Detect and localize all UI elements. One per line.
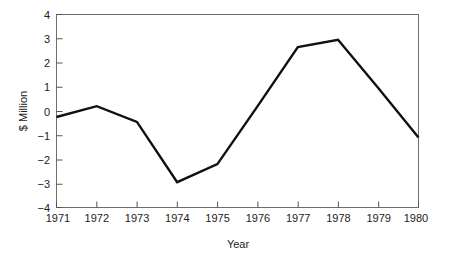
y-tick-label: −3: [37, 178, 50, 190]
x-tick-label: 1977: [286, 212, 310, 224]
x-axis-title: Year: [227, 238, 250, 250]
chart-figure: 4 3 2 1 0 −1 −2 −3 −4 1971 1972 1973 197…: [0, 0, 450, 257]
y-axis-title: $ Million: [17, 91, 29, 131]
y-tick-label: −1: [37, 130, 50, 142]
y-tick-label: 2: [44, 57, 50, 69]
x-tick-label: 1973: [125, 212, 149, 224]
x-tick-label: 1979: [366, 212, 390, 224]
line-chart: 4 3 2 1 0 −1 −2 −3 −4 1971 1972 1973 197…: [0, 0, 450, 257]
y-tick-label: 4: [44, 9, 50, 21]
y-tick-label: 3: [44, 33, 50, 45]
y-tick-label: 1: [44, 81, 50, 93]
y-tick-label: 0: [44, 106, 50, 118]
x-tick-label: 1971: [46, 212, 70, 224]
x-tick-labels: 1971 1972 1973 1974 1975 1976 1977 1978 …: [46, 212, 428, 224]
x-tick-label: 1980: [404, 212, 428, 224]
y-tick-labels: 4 3 2 1 0 −1 −2 −3 −4: [37, 9, 50, 214]
x-tick-label: 1972: [85, 212, 109, 224]
x-tick-label: 1974: [165, 212, 189, 224]
x-tick-label: 1975: [205, 212, 229, 224]
x-tick-label: 1978: [326, 212, 350, 224]
y-tick-label: −2: [37, 154, 50, 166]
x-tick-label: 1976: [246, 212, 270, 224]
